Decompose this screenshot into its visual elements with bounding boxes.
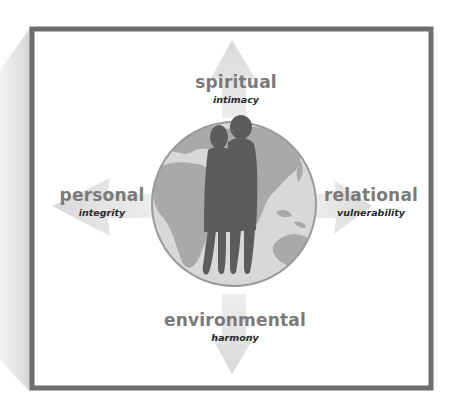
dimension-top: spiritual intimacy (195, 72, 277, 107)
frame-shadow (0, 28, 30, 392)
dimension-title-environmental: environmental (164, 310, 306, 330)
dimension-subtitle-integrity: integrity (60, 206, 145, 220)
diagram-stage: spiritual intimacy personal integrity re… (0, 0, 452, 412)
dimension-right: relational vulnerability (324, 185, 418, 220)
dimension-title-relational: relational (324, 185, 418, 205)
dimension-subtitle-harmony: harmony (164, 331, 306, 345)
dimension-title-personal: personal (60, 185, 145, 205)
dimension-subtitle-vulnerability: vulnerability (324, 206, 418, 220)
dimension-title-spiritual: spiritual (195, 72, 277, 92)
dimension-left: personal integrity (60, 185, 145, 220)
dimension-subtitle-intimacy: intimacy (195, 93, 277, 107)
dimension-bottom: environmental harmony (164, 310, 306, 345)
